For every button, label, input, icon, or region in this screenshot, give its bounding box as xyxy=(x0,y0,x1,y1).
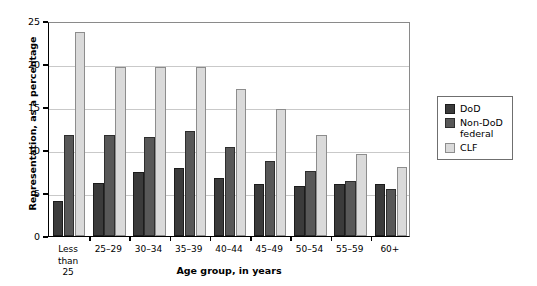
bar xyxy=(64,135,74,236)
bar xyxy=(133,172,143,236)
x-tick-label: 45–49 xyxy=(249,244,289,256)
bar-groups xyxy=(49,23,409,236)
bar xyxy=(93,183,103,236)
x-tick-label: 30–34 xyxy=(128,244,168,256)
y-tick-label: 10 xyxy=(0,146,40,156)
legend-item: DoD xyxy=(445,103,506,114)
bar xyxy=(265,161,275,236)
x-tick-label: 40–44 xyxy=(209,244,249,256)
bar-group xyxy=(331,23,371,236)
bar-group xyxy=(89,23,129,236)
y-tick-label: 5 xyxy=(0,189,40,199)
y-axis-title: Representation, as a percentage xyxy=(27,14,38,234)
bar xyxy=(397,167,407,236)
bar xyxy=(196,67,206,236)
x-tick-mark xyxy=(290,236,291,241)
y-tick-label: 15 xyxy=(0,103,40,113)
legend-item: CLF xyxy=(445,142,506,153)
legend-label: DoD xyxy=(460,103,480,114)
bar xyxy=(375,184,385,236)
legend-label: Non-DoD federal xyxy=(460,117,503,139)
bar xyxy=(225,147,235,236)
bar xyxy=(345,181,355,236)
bar xyxy=(254,184,264,236)
bar xyxy=(174,168,184,236)
bar xyxy=(185,131,195,236)
x-tick-label: 35–39 xyxy=(169,244,209,256)
bar xyxy=(305,171,315,236)
bar-group xyxy=(49,23,89,236)
x-tick-label: 25–29 xyxy=(88,244,128,256)
x-tick-mark xyxy=(371,236,372,241)
legend-swatch-icon xyxy=(445,118,455,128)
x-tick-label: 50–54 xyxy=(289,244,329,256)
bar-group xyxy=(290,23,330,236)
bar xyxy=(236,89,246,236)
x-tick-mark xyxy=(331,236,332,241)
x-tick-mark xyxy=(210,236,211,241)
bar xyxy=(115,67,125,236)
x-tick-label: 55–59 xyxy=(330,244,370,256)
bar-chart: Representation, as a percentage 05101520… xyxy=(0,0,537,286)
legend-swatch-icon xyxy=(445,143,455,153)
bar-group xyxy=(371,23,411,236)
bar xyxy=(316,135,326,236)
x-tick-label: 60+ xyxy=(370,244,410,256)
bar xyxy=(53,201,63,236)
bar xyxy=(144,137,154,236)
bar xyxy=(386,189,396,236)
bar xyxy=(104,135,114,236)
bar xyxy=(155,67,165,236)
bar-group xyxy=(250,23,290,236)
x-axis-title: Age group, in years xyxy=(48,265,410,276)
bar xyxy=(276,109,286,236)
x-tick-mark xyxy=(170,236,171,241)
bar xyxy=(75,32,85,236)
legend-label: CLF xyxy=(460,142,477,153)
x-tick-mark xyxy=(129,236,130,241)
legend: DoDNon-DoD federalCLF xyxy=(437,96,513,160)
bar xyxy=(356,154,366,236)
y-tick-label: 25 xyxy=(0,17,40,27)
bar xyxy=(294,186,304,236)
bar-group xyxy=(170,23,210,236)
legend-item: Non-DoD federal xyxy=(445,117,506,139)
bar xyxy=(214,178,224,236)
bar-group xyxy=(129,23,169,236)
x-tick-mark xyxy=(89,236,90,241)
y-tick-label: 20 xyxy=(0,60,40,70)
legend-swatch-icon xyxy=(445,104,455,114)
bar-group xyxy=(210,23,250,236)
y-tick-label: 0 xyxy=(0,232,40,242)
plot-area xyxy=(48,22,410,237)
bar xyxy=(334,184,344,236)
x-tick-mark xyxy=(250,236,251,241)
